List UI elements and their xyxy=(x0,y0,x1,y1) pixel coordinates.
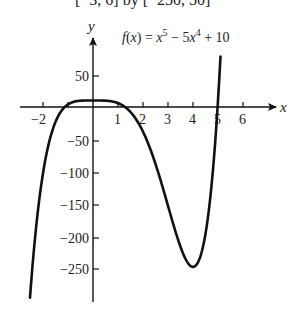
y-axis-label: y xyxy=(86,18,95,34)
svg-text:−50: −50 xyxy=(67,134,89,149)
x-axis-label: x xyxy=(279,99,287,115)
window-header-text: [−3, 6] by [−250, 50] xyxy=(75,0,210,9)
function-curve xyxy=(30,57,221,298)
svg-text:4: 4 xyxy=(189,112,196,127)
svg-text:−250: −250 xyxy=(60,262,89,277)
svg-text:6: 6 xyxy=(239,112,246,127)
svg-text:3: 3 xyxy=(164,112,171,127)
svg-text:−200: −200 xyxy=(60,231,89,246)
svg-text:−2: −2 xyxy=(31,112,46,127)
function-plot: [−3, 6] by [−250, 50] x y f(x) = x5 − 5x… xyxy=(0,0,300,317)
svg-text:−100: −100 xyxy=(60,166,89,181)
svg-text:1: 1 xyxy=(114,112,121,127)
chart-title: f(x) = x5 − 5x4 + 10 xyxy=(122,27,230,46)
svg-text:−150: −150 xyxy=(60,198,89,213)
svg-text:50: 50 xyxy=(75,69,89,84)
y-ticks xyxy=(93,76,99,269)
